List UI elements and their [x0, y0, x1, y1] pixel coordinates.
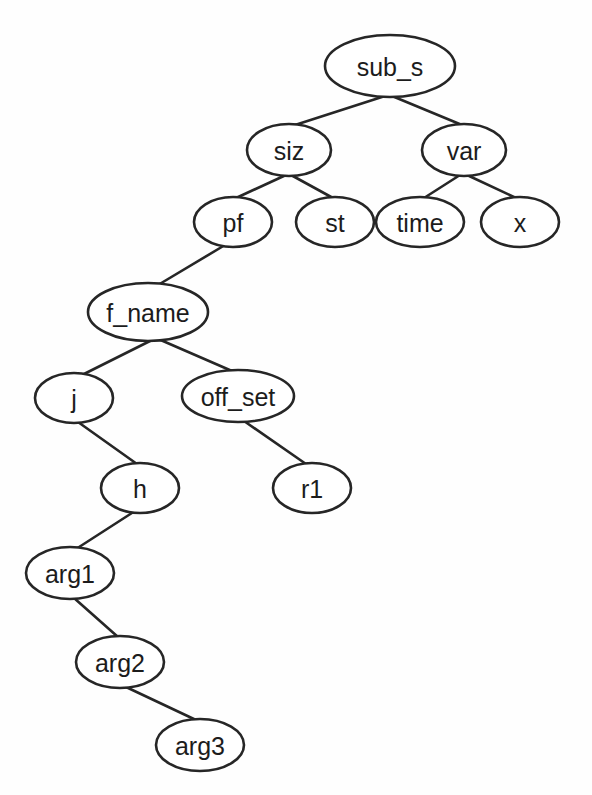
node-label-sub_s: sub_s [357, 53, 424, 81]
parse-tree-svg: sub_ssizvarpfsttimexf_namejoff_sethr1arg… [0, 0, 592, 795]
tree-node-f_name[interactable]: f_name [88, 283, 208, 341]
tree-node-time[interactable]: time [376, 197, 464, 247]
tree-edge-off_set-to-r1 [244, 421, 306, 464]
tree-edge-sub_s-to-var [392, 96, 462, 125]
node-label-off_set: off_set [201, 383, 276, 411]
tree-node-off_set[interactable]: off_set [182, 370, 294, 422]
tree-edge-sub_s-to-siz [295, 96, 385, 125]
node-label-st: st [325, 209, 345, 237]
tree-edge-j-to-h [78, 422, 137, 464]
tree-edge-arg2-to-arg3 [126, 687, 196, 720]
tree-edge-f_name-to-off_set [156, 338, 232, 371]
node-label-h: h [133, 475, 147, 503]
tree-node-sub_s[interactable]: sub_s [325, 35, 455, 97]
tree-edge-h-to-arg1 [76, 511, 135, 549]
tree-node-x[interactable]: x [481, 197, 559, 247]
node-label-arg1: arg1 [45, 560, 95, 588]
node-label-pf: pf [223, 209, 244, 237]
tree-edge-var-to-time [424, 175, 460, 198]
tree-edge-f_name-to-j [82, 340, 152, 375]
tree-edge-siz-to-st [291, 175, 333, 198]
tree-diagram-canvas: sub_ssizvarpfsttimexf_namejoff_sethr1arg… [0, 0, 592, 795]
tree-node-arg1[interactable]: arg1 [26, 547, 114, 599]
tree-edge-siz-to-pf [236, 175, 286, 198]
node-label-x: x [514, 209, 527, 237]
node-label-var: var [447, 137, 482, 165]
node-label-siz: siz [274, 137, 305, 165]
tree-node-r1[interactable]: r1 [273, 463, 351, 513]
tree-node-h[interactable]: h [101, 463, 179, 513]
tree-node-pf[interactable]: pf [194, 197, 272, 247]
node-label-arg3: arg3 [175, 732, 225, 760]
tree-node-j[interactable]: j [35, 373, 113, 423]
tree-node-st[interactable]: st [296, 197, 374, 247]
node-label-r1: r1 [301, 475, 323, 503]
edge-layer [74, 96, 516, 720]
tree-node-arg3[interactable]: arg3 [156, 719, 244, 771]
node-label-f_name: f_name [106, 299, 189, 327]
tree-edge-pf-to-f_name [158, 245, 225, 285]
tree-edge-arg1-to-arg2 [74, 598, 118, 637]
tree-node-arg2[interactable]: arg2 [76, 636, 164, 688]
tree-node-var[interactable]: var [422, 124, 506, 176]
node-label-arg2: arg2 [95, 649, 145, 677]
tree-edge-var-to-x [467, 175, 516, 198]
tree-node-siz[interactable]: siz [247, 124, 331, 176]
node-label-j: j [70, 385, 77, 413]
node-layer: sub_ssizvarpfsttimexf_namejoff_sethr1arg… [26, 35, 559, 771]
node-label-time: time [396, 209, 443, 237]
